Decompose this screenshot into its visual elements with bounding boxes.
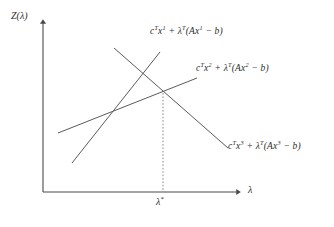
l3-minus: − bbox=[281, 141, 293, 151]
l1-plus: + bbox=[166, 26, 178, 36]
lambda-star-tick-label: λ* bbox=[156, 196, 164, 207]
l1-minus: − bbox=[203, 26, 215, 36]
l2-minus: − bbox=[249, 63, 261, 73]
dual-line-1 bbox=[72, 52, 160, 163]
l2-close-paren: ) bbox=[266, 63, 269, 73]
dual-line-2-label: cTx2 + λT(Ax2 − b) bbox=[196, 63, 269, 73]
lambda-star-superscript: * bbox=[160, 195, 164, 203]
l1-close-paren: ) bbox=[220, 26, 223, 36]
x-axis-label: λ bbox=[248, 184, 252, 195]
lagrangian-dual-figure: Z(λ) λ λ* cTx1 + λT(Ax1 − b) cTx2 + λT(A… bbox=[0, 0, 334, 227]
dual-line-2 bbox=[58, 78, 197, 133]
l2-plus: + bbox=[212, 63, 224, 73]
dual-line-1-label: cTx1 + λT(Ax1 − b) bbox=[150, 26, 223, 36]
dual-line-3-label: cTx3 + λT(Ax3 − b) bbox=[228, 141, 301, 151]
y-axis-label: Z(λ) bbox=[11, 10, 28, 21]
l3-plus: + bbox=[244, 141, 256, 151]
l3-close-paren: ) bbox=[298, 141, 301, 151]
